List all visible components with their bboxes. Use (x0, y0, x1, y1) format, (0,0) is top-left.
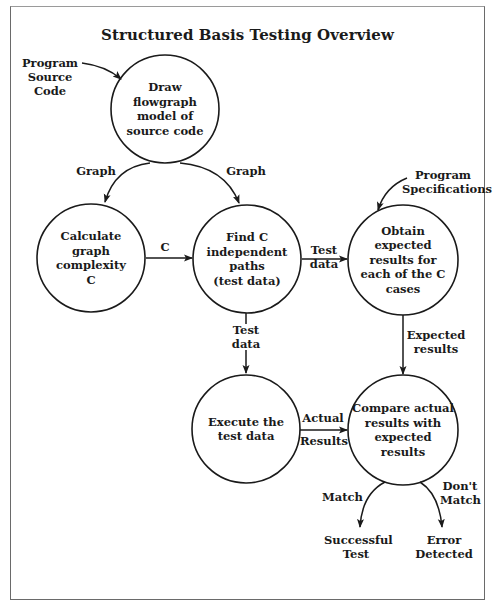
outcome-error-detected: Error Detected (412, 533, 476, 561)
edge-label-expected-results: Expected results (406, 328, 466, 356)
node-text-execute-tests: Execute the test data (196, 379, 296, 479)
input-program-source-code: Program Source Code (14, 56, 86, 98)
edge-label-actual: Actual (301, 411, 345, 425)
edge-label-graph-right: Graph (226, 164, 266, 178)
edge-label-test-data-down: Test data (228, 323, 264, 351)
edge-label-test-data-right: Test data (306, 243, 342, 271)
node-text-find-paths: Find C independent paths (test data) (197, 209, 297, 309)
arrow-dont-match (420, 482, 442, 527)
edge-label-match: Match (322, 490, 362, 504)
edge-label-results: Results (300, 434, 344, 448)
input-program-specifications: Program Specifications (402, 168, 484, 196)
node-text-calculate-complexity: Calculate graph complexity C (41, 208, 141, 308)
arrow-match (360, 482, 385, 527)
node-text-draw-flowgraph: Draw flowgraph model of source code (115, 59, 215, 159)
diagram-title: Structured Basis Testing Overview (0, 26, 495, 44)
edge-label-dont-match: Don't Match (440, 479, 480, 507)
node-text-obtain-expected: Obtain expected results for each of the … (348, 210, 458, 310)
outcome-successful-test: Successful Test (324, 533, 388, 561)
edge-label-c: C (155, 240, 175, 254)
edge-label-graph-left: Graph (76, 164, 116, 178)
node-text-compare-results: Compare actual results with expected res… (348, 380, 458, 480)
